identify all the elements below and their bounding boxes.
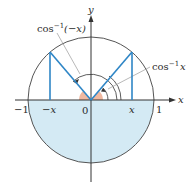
x-axis-arrow-icon xyxy=(169,98,176,103)
tick-pos-x: x xyxy=(129,104,135,115)
tick-one: 1 xyxy=(156,104,162,115)
radius-segment-neg-x xyxy=(50,52,91,100)
tick-neg-x: −x xyxy=(42,104,56,115)
radius-segment-x xyxy=(91,52,132,100)
tick-neg-one: −1 xyxy=(14,104,29,115)
y-axis-label: y xyxy=(87,4,94,15)
label-arccos-x: cos−1x xyxy=(152,60,186,72)
label-arccos-neg-x: cos−1(−x) xyxy=(37,22,86,34)
y-axis-arrow-icon xyxy=(89,15,94,22)
unit-circle-diagram: y x −1 −x 0 x 1 cos−1(−x) cos−1x xyxy=(0,0,190,191)
leader-arccos-x xyxy=(108,67,150,89)
tick-zero: 0 xyxy=(82,105,88,116)
arc-outer-right xyxy=(109,76,121,100)
x-axis-label: x xyxy=(178,94,184,105)
